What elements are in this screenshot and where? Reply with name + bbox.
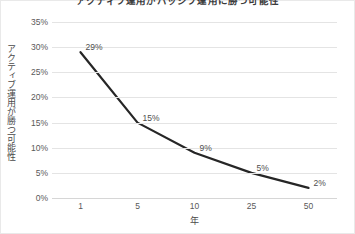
plot-area: 29%15%9%5%2% (52, 22, 337, 198)
x-axis-title: 年 (52, 214, 337, 227)
x-axis-tick-label: 1 (78, 201, 83, 211)
data-point-label: 2% (314, 178, 326, 188)
data-point-label: 15% (143, 113, 160, 123)
gridline (52, 148, 337, 149)
chart-title: アクティブ運用がパッシブ運用に勝つ可能性 (0, 0, 355, 7)
y-axis-tick-label: 5% (18, 168, 48, 178)
gridline (52, 22, 337, 23)
chart-container: アクティブ運用がパッシブ運用に勝つ可能性 アクティブ運用が勝つ可能性 35%30… (0, 0, 355, 234)
y-axis-tick-labels: 35%30%25%20%15%10%5%0% (18, 0, 48, 234)
x-axis-tick-label: 5 (135, 201, 140, 211)
y-axis-tick-label: 0% (18, 193, 48, 203)
gridline (52, 72, 337, 73)
y-axis-tick-label: 25% (18, 67, 48, 77)
y-axis-tick-label: 35% (18, 17, 48, 27)
x-axis-tick-label: 10 (190, 201, 199, 211)
data-point-label: 5% (257, 163, 269, 173)
data-point-label: 9% (200, 143, 212, 153)
gridline (52, 123, 337, 124)
x-axis-tick-labels: 15102550 (52, 201, 337, 215)
gridline (52, 173, 337, 174)
y-axis-tick-label: 15% (18, 118, 48, 128)
x-axis-tick-label: 50 (304, 201, 313, 211)
y-axis-tick-label: 10% (18, 143, 48, 153)
data-point-label: 29% (86, 42, 103, 52)
y-axis-title: アクティブ運用が勝つ可能性 (2, 44, 16, 161)
gridline (52, 97, 337, 98)
x-axis-tick-label: 25 (247, 201, 256, 211)
y-axis-tick-label: 30% (18, 42, 48, 52)
y-axis-tick-label: 20% (18, 92, 48, 102)
x-axis-line (52, 198, 337, 199)
